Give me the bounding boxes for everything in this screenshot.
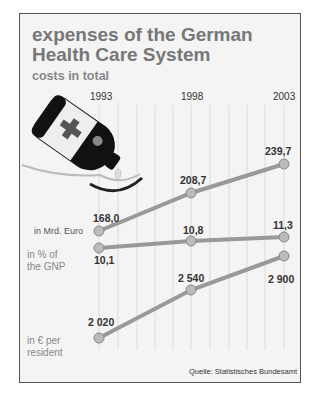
value-label: 10,8 <box>183 224 203 236</box>
year-label: 1998 <box>181 91 203 102</box>
value-label: 2 020 <box>88 316 114 328</box>
year-label: 1993 <box>90 91 112 102</box>
series-label-gnp: in % of the GNP <box>27 249 72 273</box>
value-label: 168,0 <box>93 212 119 224</box>
value-label: 2 900 <box>268 273 294 285</box>
chart-title: expenses of the German Health Care Syste… <box>32 25 292 65</box>
chart-subtitle: costs in total <box>32 69 109 83</box>
source-note: Quelle: Statistisches Bundesamt <box>189 367 297 376</box>
value-label: 11,3 <box>273 219 293 231</box>
year-label: 2003 <box>273 91 295 102</box>
medicine-bottle-icon <box>22 93 142 191</box>
value-label: 2 540 <box>178 272 204 284</box>
value-label: 10,1 <box>94 254 114 266</box>
series-label-resident: in € per resident <box>27 335 77 359</box>
value-label: 208,7 <box>180 174 206 186</box>
series-label-euro: in Mrd. Euro <box>34 225 83 237</box>
value-label: 239,7 <box>265 145 291 157</box>
